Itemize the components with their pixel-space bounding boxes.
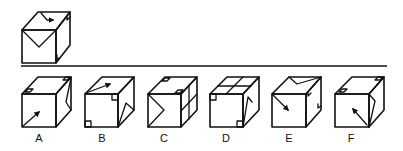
arrow-icon <box>23 112 39 126</box>
option-d-cube[interactable] <box>210 77 259 127</box>
arrow-icon <box>353 109 367 125</box>
small-square-icon <box>85 121 91 127</box>
cube-puzzle-figure <box>0 0 403 151</box>
v-shape-icon <box>22 30 56 47</box>
option-e-cube[interactable] <box>272 77 321 127</box>
small-square-icon <box>112 94 118 100</box>
option-label-e[interactable]: E <box>285 133 292 144</box>
option-label-c[interactable]: C <box>160 133 168 144</box>
hook-arrow-icon <box>41 13 53 20</box>
small-square-icon <box>237 121 243 127</box>
small-square-icon <box>210 94 216 100</box>
option-f-cube[interactable] <box>335 77 384 127</box>
option-label-a[interactable]: A <box>35 133 42 144</box>
v-shape-icon <box>148 94 164 127</box>
corner-mark-icon <box>308 92 311 96</box>
option-label-f[interactable]: F <box>348 133 355 144</box>
option-label-d[interactable]: D <box>222 133 230 144</box>
reference-cube <box>22 12 70 63</box>
option-c-cube[interactable] <box>148 77 197 127</box>
option-b-cube[interactable] <box>85 77 134 127</box>
option-a-cube[interactable] <box>22 77 71 127</box>
option-label-b[interactable]: B <box>98 133 105 144</box>
arrow-icon <box>273 95 288 110</box>
